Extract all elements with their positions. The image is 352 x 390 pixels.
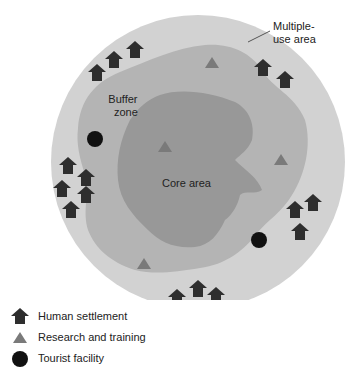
core-area-label: Core area	[162, 177, 211, 190]
legend: Human settlement Research and training T…	[8, 305, 146, 368]
buffer-zone-label: Buffer zone	[108, 93, 138, 119]
legend-item-tourist: Tourist facility	[8, 347, 146, 368]
circle-icon	[8, 349, 32, 367]
multiple-use-label: Multiple- use area	[273, 20, 316, 46]
legend-item-research: Research and training	[8, 326, 146, 347]
circle-icon	[87, 131, 103, 147]
legend-label: Research and training	[38, 331, 146, 343]
legend-label: Tourist facility	[38, 352, 104, 364]
cropped-caption	[0, 384, 120, 390]
legend-item-settlement: Human settlement	[8, 305, 146, 326]
circle-icon	[251, 232, 267, 248]
house-icon	[8, 307, 32, 325]
triangle-icon	[8, 328, 32, 346]
legend-label: Human settlement	[38, 310, 127, 322]
